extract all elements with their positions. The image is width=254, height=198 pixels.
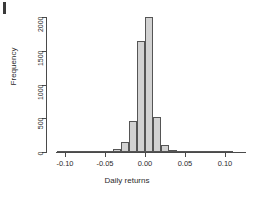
y-axis-label: Frequency	[9, 32, 18, 102]
x-axis-line	[56, 152, 246, 153]
histogram-bar	[137, 41, 145, 152]
x-axis-tick	[145, 153, 146, 157]
x-axis-tick-label: 0.05	[165, 160, 205, 168]
x-axis-tick-label: 0.00	[125, 160, 165, 168]
y-axis-tick-label: 0	[37, 152, 44, 192]
x-axis-tick	[105, 153, 106, 157]
x-axis-tick	[225, 153, 226, 157]
y-axis-tick-label: 2000	[37, 17, 44, 57]
histogram-bar	[121, 142, 129, 152]
x-axis-tick	[65, 153, 66, 157]
y-axis-line	[46, 17, 47, 153]
histogram-bar	[145, 17, 153, 152]
x-axis-label: Daily returns	[0, 176, 254, 185]
histogram-bar	[129, 121, 137, 152]
x-axis-tick-label: -0.05	[85, 160, 125, 168]
histogram-figure: 0500100015002000 -0.10-0.050.000.050.10 …	[0, 0, 254, 198]
histogram-bar	[161, 145, 169, 152]
histogram-bar	[153, 117, 161, 152]
plot-area: 0500100015002000 -0.10-0.050.000.050.10 …	[0, 0, 254, 198]
x-axis-tick-label: 0.10	[205, 160, 245, 168]
x-axis-tick	[185, 153, 186, 157]
x-axis-tick-label: -0.10	[45, 160, 85, 168]
